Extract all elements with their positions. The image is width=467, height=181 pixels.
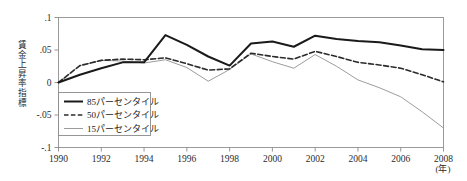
y-axis-label-char: 標 <box>18 97 27 108</box>
y-axis-ticks: .1.050-.05-.1 <box>36 13 58 153</box>
x-tick-label: 2002 <box>306 154 325 164</box>
legend-label: 85パーセンタイル <box>87 97 159 107</box>
x-tick-label: 2004 <box>348 154 367 164</box>
wage-growth-line-chart: .1.050-.05-.1 19901992199419961998200020… <box>0 0 467 181</box>
y-tick-label: -.05 <box>36 110 51 120</box>
y-axis-label-char: 昇 <box>18 69 27 79</box>
x-tick-label: 1992 <box>92 154 111 164</box>
y-tick-label: -.1 <box>41 143 52 153</box>
legend-label: 15パーセンタイル <box>87 124 159 134</box>
x-tick-label: 2006 <box>391 154 410 164</box>
y-axis-label-char: 賃 <box>18 39 27 50</box>
x-axis-unit-label: (年) <box>436 163 451 174</box>
x-axis-ticks: 1990199219941996199820002002200420062008 <box>49 148 453 165</box>
y-axis-label-char: 金 <box>18 49 27 60</box>
x-tick-label: 1998 <box>220 154 239 164</box>
y-tick-label: .1 <box>44 13 51 23</box>
y-axis-label: 賃金上昇率指標 <box>18 39 27 108</box>
y-tick-label: .05 <box>40 45 52 55</box>
x-tick-label: 2008 <box>434 154 453 164</box>
x-tick-label: 1996 <box>177 154 196 164</box>
legend-label: 50パーセンタイル <box>87 110 159 120</box>
y-axis-label-char: 率 <box>18 77 27 88</box>
x-tick-label: 1994 <box>135 154 154 164</box>
y-axis-label-char: 上 <box>18 59 27 69</box>
x-tick-label: 1990 <box>49 154 68 164</box>
y-tick-label: 0 <box>47 78 52 88</box>
chart-figure: .1.050-.05-.1 19901992199419961998200020… <box>0 0 467 181</box>
y-axis-label-char: 指 <box>18 87 27 98</box>
x-tick-label: 2000 <box>263 154 282 164</box>
chart-legend: 85パーセンタイル50パーセンタイル15パーセンタイル <box>59 93 160 136</box>
